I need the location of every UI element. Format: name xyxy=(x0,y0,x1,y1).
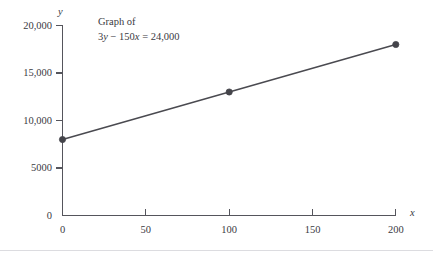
equation-var-y: y xyxy=(103,31,108,42)
equation-coef-x: 150 xyxy=(119,31,135,42)
y-tick-label-0: 0 xyxy=(4,209,52,221)
annotation-line-1: Graph of xyxy=(98,14,180,29)
x-tick-label-50: 50 xyxy=(141,224,152,236)
y-axis-label: y xyxy=(58,6,63,18)
data-point-100-13000 xyxy=(226,89,232,95)
y-tick-label-10000: 10,000 xyxy=(4,114,52,126)
equation-constant: 24,000 xyxy=(151,31,180,42)
equation-minus: − xyxy=(111,31,117,42)
x-axis-label: x xyxy=(410,207,415,219)
y-tick-label-5000: 5000 xyxy=(4,162,52,174)
data-point-0-8000 xyxy=(59,136,65,142)
x-tick-label-150: 150 xyxy=(305,224,321,236)
y-tick-label-15000: 15,000 xyxy=(4,67,52,79)
equation-equals: = xyxy=(142,31,148,42)
data-point-200-18000 xyxy=(393,41,399,47)
series-markers xyxy=(59,41,399,142)
annotation-equation: 3y − 150x = 24,000 xyxy=(98,29,180,44)
y-tick-label-20000: 20,000 xyxy=(4,19,52,31)
chart-annotation: Graph of 3y − 150x = 24,000 xyxy=(98,14,180,44)
x-tick-label-100: 100 xyxy=(221,224,237,236)
x-tick-label-0: 0 xyxy=(60,224,65,236)
x-axis-ticks xyxy=(63,209,396,216)
equation-var-x: x xyxy=(135,31,140,42)
y-axis-ticks xyxy=(56,26,63,169)
chart-figure: y x 20,000 15,000 10,000 5000 0 0 50 100… xyxy=(0,0,433,258)
x-tick-label-200: 200 xyxy=(388,224,404,236)
chart-canvas xyxy=(0,0,433,258)
